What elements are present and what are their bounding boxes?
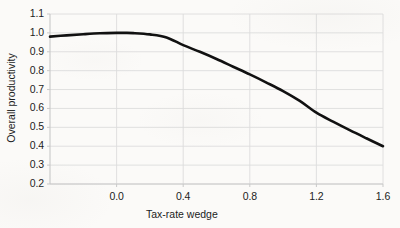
y-axis-title: Overall productivity bbox=[5, 38, 17, 158]
x-tick-label: 0.0 bbox=[100, 190, 134, 202]
vertical-gridlines bbox=[117, 14, 383, 184]
horizontal-gridlines bbox=[50, 14, 383, 184]
tick-marks bbox=[47, 14, 383, 187]
x-tick-label: 1.2 bbox=[299, 190, 333, 202]
y-tick-label: 0.2 bbox=[10, 177, 44, 189]
y-tick-label: 1.0 bbox=[10, 26, 44, 38]
axis-lines bbox=[50, 14, 383, 184]
y-tick-label: 1.1 bbox=[10, 7, 44, 19]
chart-figure: 0.20.30.40.50.60.70.80.91.01.1 0.00.40.8… bbox=[0, 0, 400, 228]
x-tick-label: 0.4 bbox=[166, 190, 200, 202]
x-tick-label: 1.6 bbox=[366, 190, 400, 202]
x-axis-title: Tax-rate wedge bbox=[146, 208, 218, 220]
x-tick-label: 0.8 bbox=[233, 190, 267, 202]
y-tick-label: 0.3 bbox=[10, 158, 44, 170]
